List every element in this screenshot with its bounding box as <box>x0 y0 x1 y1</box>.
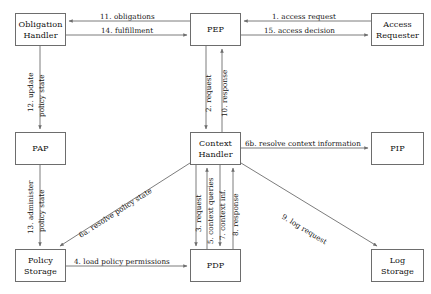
node-pap[interactable]: PAP <box>15 132 66 165</box>
edge-label-15-access-decision: 15. access decision <box>264 26 335 35</box>
node-label-line2: Storage <box>24 266 57 277</box>
edge-label-11-obligations: 11. obligations <box>100 12 155 21</box>
edge-label-2-request: 2. request <box>204 75 213 112</box>
edge-label-12-update-policy-state-line1: 12. update <box>26 73 35 112</box>
node-label-line2: Storage <box>381 266 414 277</box>
edge-label-7-context-inf: 7. context inf. <box>218 189 227 240</box>
node-obligation-handler[interactable]: Obligation Handler <box>15 13 66 46</box>
edge-label-6b-resolve-context-information: 6b. resolve context information <box>245 139 361 148</box>
node-label-line1: Obligation <box>19 19 63 30</box>
edge-label-5-context-queries: 5. context queries <box>206 177 215 244</box>
node-log-storage[interactable]: Log Storage <box>371 249 424 282</box>
node-label-line1: Log <box>390 255 406 266</box>
edge-label-13-administer-policy-state-line2: policy state <box>37 189 46 232</box>
node-pep[interactable]: PEP <box>190 13 241 46</box>
node-pdp[interactable]: PDP <box>190 249 241 282</box>
edge-label-1-access-request: 1. access request <box>272 12 336 21</box>
node-label-line2: Requester <box>376 30 419 41</box>
node-label-line1: Access <box>383 19 412 30</box>
node-label-line1: PDP <box>207 260 225 271</box>
edge-label-14-fulfillment: 14. fulfillment <box>101 26 153 35</box>
node-label-line1: PAP <box>32 143 48 154</box>
node-pip[interactable]: PIP <box>371 132 424 165</box>
edge-label-12-update-policy-state-line2: policy state <box>37 74 46 117</box>
node-access-requester[interactable]: Access Requester <box>371 13 424 46</box>
edge-label-8-response: 8. response <box>231 193 240 236</box>
node-label-line2: Handler <box>198 149 232 160</box>
node-label-line1: Policy <box>28 255 53 266</box>
node-context-handler[interactable]: Context Handler <box>190 132 241 165</box>
edge-label-10-response: 10. response <box>220 70 229 117</box>
node-policy-storage[interactable]: Policy Storage <box>15 249 66 282</box>
edge-label-13-administer-policy-state-line1: 13. administer <box>26 180 35 234</box>
node-label-line1: Context <box>199 138 232 149</box>
edge-label-4-load-policy-permissions: 4. load policy permissions <box>74 257 170 266</box>
node-label-line1: PEP <box>207 24 224 35</box>
edge-label-3-request: 3. request <box>194 195 203 232</box>
node-label-line1: PIP <box>390 143 404 154</box>
xacml-flow-diagram: Obligation Handler PEP Access Requester … <box>0 0 431 294</box>
node-label-line2: Handler <box>23 30 57 41</box>
